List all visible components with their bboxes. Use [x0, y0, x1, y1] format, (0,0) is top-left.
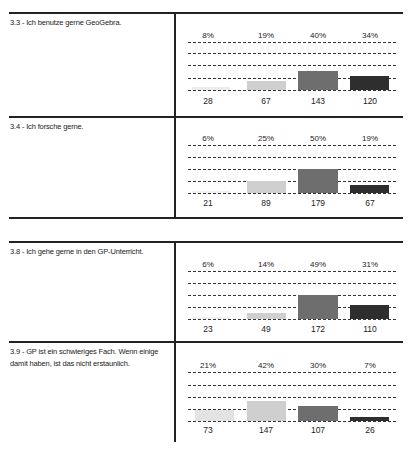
percent-label: 42%	[246, 361, 286, 370]
count-label: 172	[298, 324, 338, 334]
bar-2	[247, 401, 286, 421]
count-label: 28	[188, 96, 228, 106]
column-divider-b	[174, 241, 176, 442]
count-label: 120	[350, 96, 390, 106]
gridline	[188, 157, 396, 158]
bar-3	[298, 71, 338, 90]
bar-chart-3-8: 6% 14% 49% 31% 23 49 172 110	[188, 259, 398, 339]
row-divider-top	[9, 12, 403, 14]
question-label-3-3: 3.3 - Ich benutze gerne GeoGebra.	[10, 17, 170, 29]
percent-label: 21%	[188, 361, 228, 370]
count-label: 21	[188, 198, 228, 208]
question-label-3-9: 3.9 - GP ist ein schwieriges Fach. Wenn …	[10, 346, 170, 370]
bar-chart-3-3: 8% 19% 40% 34% 28 67 143 120	[188, 30, 398, 110]
baseline	[188, 193, 396, 194]
question-label-3-4: 3.4 - Ich forsche gerne.	[10, 121, 170, 133]
bar-3	[298, 406, 338, 421]
bar-4	[350, 76, 389, 90]
percent-label: 30%	[298, 361, 338, 370]
baseline	[188, 421, 396, 422]
count-label: 23	[188, 324, 228, 334]
column-divider-a	[174, 12, 176, 218]
percent-label: 49%	[298, 260, 338, 269]
percent-label: 31%	[350, 260, 390, 269]
baseline	[188, 319, 396, 320]
row-divider-1	[9, 116, 403, 118]
gridline	[188, 145, 396, 146]
count-label: 143	[298, 96, 338, 106]
count-label: 147	[246, 425, 286, 435]
bar-chart-3-9: 21% 42% 30% 7% 73 147 107 26	[188, 360, 398, 440]
percent-label: 34%	[350, 31, 390, 40]
bar-chart-3-4: 6% 25% 50% 19% 21 89 179 67	[188, 133, 398, 213]
count-label: 73	[188, 425, 228, 435]
bar-3	[298, 295, 338, 319]
count-label: 26	[350, 425, 390, 435]
question-label-3-8: 3.8 - Ich gehe gerne in den GP-Unterrich…	[10, 246, 170, 258]
row-divider-3	[9, 241, 403, 243]
percent-label: 6%	[188, 134, 228, 143]
baseline	[188, 90, 396, 91]
gridline	[188, 372, 396, 373]
bar-1	[195, 410, 234, 421]
row-divider-2	[9, 217, 403, 219]
gridline	[188, 53, 396, 54]
bar-4	[350, 185, 389, 193]
percent-label: 19%	[350, 134, 390, 143]
count-label: 49	[246, 324, 286, 334]
gridline	[188, 397, 396, 398]
count-label: 179	[298, 198, 338, 208]
gridline	[188, 283, 396, 284]
gridline	[188, 181, 396, 182]
bar-2	[247, 181, 286, 193]
gridline	[188, 65, 396, 66]
gridline	[188, 42, 396, 43]
gridline	[188, 169, 396, 170]
count-label: 67	[350, 198, 390, 208]
count-label: 110	[350, 324, 390, 334]
percent-label: 14%	[246, 260, 286, 269]
bar-4	[350, 305, 389, 319]
percent-label: 6%	[188, 260, 228, 269]
percent-label: 25%	[246, 134, 286, 143]
count-label: 107	[298, 425, 338, 435]
percent-label: 50%	[298, 134, 338, 143]
percent-label: 19%	[246, 31, 286, 40]
percent-label: 7%	[350, 361, 390, 370]
percent-label: 8%	[188, 31, 228, 40]
percent-label: 40%	[298, 31, 338, 40]
count-label: 89	[246, 198, 286, 208]
gridline	[188, 271, 396, 272]
gridline	[188, 385, 396, 386]
row-divider-4	[9, 341, 403, 343]
bar-2	[247, 81, 286, 90]
count-label: 67	[246, 96, 286, 106]
gridline	[188, 295, 396, 296]
bar-3	[298, 169, 338, 193]
